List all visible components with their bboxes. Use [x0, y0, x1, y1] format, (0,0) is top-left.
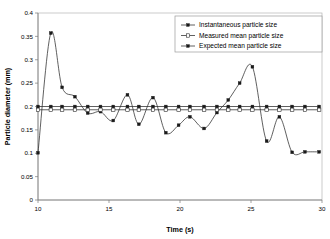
data-point-marker	[151, 108, 154, 111]
data-point-marker	[137, 105, 140, 108]
data-point-marker	[227, 108, 230, 111]
data-point-marker	[126, 93, 129, 96]
data-point-marker	[137, 123, 140, 126]
x-tick-label: 20	[177, 205, 184, 212]
data-point-marker	[99, 108, 102, 111]
data-point-marker	[86, 112, 89, 115]
data-point-marker	[49, 32, 52, 35]
data-point-marker	[152, 105, 155, 108]
data-point-marker	[126, 108, 129, 111]
data-point-marker	[36, 108, 39, 111]
data-point-marker	[61, 86, 64, 89]
data-point-marker	[227, 99, 230, 102]
y-tick-label: 0.4	[24, 9, 33, 16]
data-point-marker	[290, 108, 293, 111]
data-point-marker	[177, 124, 180, 127]
data-point-marker	[126, 105, 129, 108]
data-point-marker	[189, 115, 192, 118]
x-tick-label: 10	[35, 205, 42, 212]
data-point-marker	[238, 105, 241, 108]
y-tick-label: 0.3	[24, 56, 33, 63]
data-point-marker	[238, 82, 241, 85]
data-point-marker	[216, 105, 219, 108]
y-tick-label: 0.2	[24, 103, 33, 110]
data-point-marker	[177, 108, 180, 111]
data-point-marker	[227, 105, 230, 108]
data-point-marker	[112, 119, 115, 122]
data-point-marker	[137, 108, 140, 111]
x-tick-label: 25	[248, 205, 255, 212]
y-tick-label: 0.15	[21, 126, 34, 133]
data-point-marker	[251, 65, 254, 68]
data-point-marker	[278, 115, 281, 118]
particle-size-line-chart: 00.050.10.150.20.250.30.350.41015202530T…	[0, 0, 330, 239]
data-point-marker	[61, 105, 64, 108]
legend-label-3: Expected mean particle size	[199, 42, 282, 50]
data-point-marker	[318, 150, 321, 153]
data-point-marker	[86, 105, 89, 108]
legend-swatch-marker-2	[186, 34, 189, 37]
data-point-marker	[37, 151, 40, 154]
data-point-marker	[73, 108, 76, 111]
data-point-marker	[318, 105, 321, 108]
x-tick-label: 15	[106, 205, 113, 212]
x-axis-title: Time (s)	[166, 225, 194, 234]
data-point-marker	[177, 105, 180, 108]
data-point-marker	[251, 105, 254, 108]
legend-swatch-marker-3	[187, 45, 190, 48]
data-point-marker	[112, 108, 115, 111]
data-point-marker	[74, 105, 77, 108]
data-point-marker	[189, 105, 192, 108]
y-tick-label: 0	[30, 196, 34, 203]
data-point-marker	[37, 105, 40, 108]
x-tick-label: 30	[319, 205, 326, 212]
data-point-marker	[164, 131, 167, 134]
data-point-marker	[278, 105, 281, 108]
data-point-marker	[291, 105, 294, 108]
data-point-marker	[304, 150, 307, 153]
data-point-marker	[303, 108, 306, 111]
data-point-marker	[265, 105, 268, 108]
data-point-marker	[238, 108, 241, 111]
data-point-marker	[304, 105, 307, 108]
data-point-marker	[60, 108, 63, 111]
data-point-marker	[112, 105, 115, 108]
data-point-marker	[188, 108, 191, 111]
data-point-marker	[164, 108, 167, 111]
data-point-marker	[152, 96, 155, 99]
data-point-marker	[99, 105, 102, 108]
data-point-marker	[278, 108, 281, 111]
y-tick-label: 0.25	[21, 79, 34, 86]
y-tick-label: 0.1	[24, 149, 33, 156]
y-tick-label: 0.05	[21, 173, 34, 180]
data-point-marker	[317, 108, 320, 111]
data-point-marker	[265, 108, 268, 111]
data-point-marker	[202, 108, 205, 111]
legend-label-1: Instantaneous particle size	[199, 21, 277, 29]
chart-container: 00.050.10.150.20.250.30.350.41015202530T…	[0, 0, 330, 239]
data-point-marker	[203, 127, 206, 130]
data-point-marker	[291, 151, 294, 154]
data-point-marker	[49, 105, 52, 108]
legend-label-2: Measured mean particle size	[199, 32, 284, 40]
data-point-marker	[215, 108, 218, 111]
y-axis-title: Particle diameter (mm)	[3, 67, 12, 145]
data-point-marker	[251, 108, 254, 111]
data-point-marker	[203, 105, 206, 108]
y-tick-label: 0.35	[21, 33, 34, 40]
legend-swatch-marker-1	[187, 24, 190, 27]
data-point-marker	[164, 105, 167, 108]
data-point-marker	[265, 140, 268, 143]
data-point-marker	[49, 108, 52, 111]
data-point-marker	[74, 95, 77, 98]
data-point-marker	[86, 108, 89, 111]
